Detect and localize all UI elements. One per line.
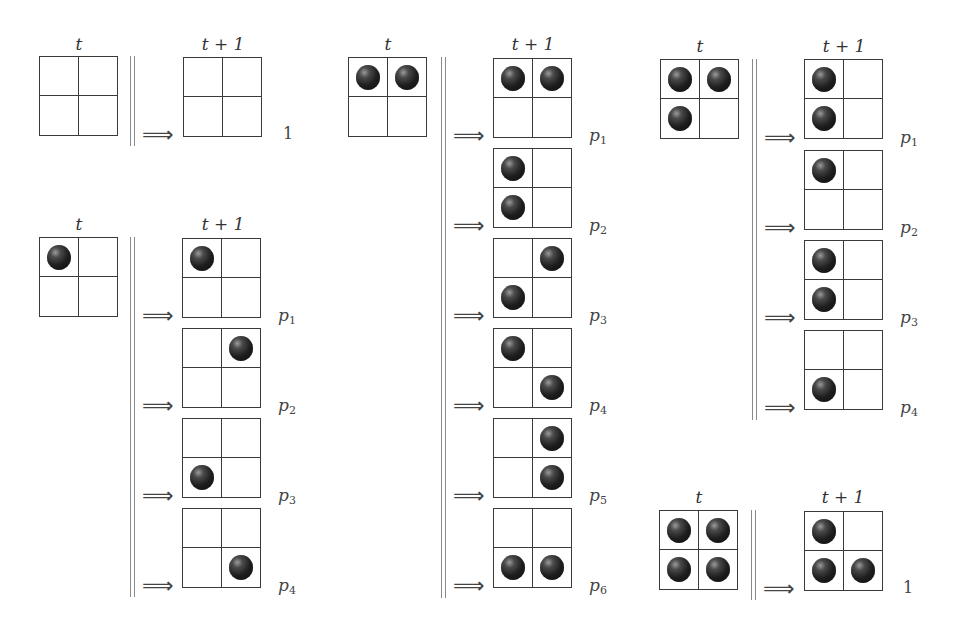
probability-label: 1: [903, 580, 913, 596]
grid-outcome-p2: [182, 328, 261, 408]
grid-outcome-p4: [493, 328, 572, 408]
ball-icon: [356, 65, 380, 90]
grid-state-t: [39, 237, 118, 317]
ball-icon: [540, 555, 564, 580]
time-label-t-plus-1: t + 1: [823, 38, 866, 55]
ball-icon: [668, 67, 692, 92]
transition-arrow-icon: ⟹: [453, 305, 485, 327]
transition-arrow-icon: ⟹: [764, 307, 796, 329]
transition-arrow-icon: ⟹: [142, 305, 174, 327]
probability-label-p1: p1: [278, 307, 296, 326]
probability-label-p4: p4: [900, 399, 918, 418]
probability-label-p1: p1: [589, 127, 607, 146]
ball-icon: [707, 67, 731, 92]
ball-icon: [812, 558, 836, 583]
separator-double-line: [752, 59, 757, 420]
ball-icon: [501, 336, 525, 361]
ball-icon: [501, 555, 525, 580]
separator-double-line: [751, 510, 756, 600]
time-label-t: t: [697, 38, 704, 55]
ball-icon: [395, 65, 419, 90]
transition-arrow-icon: ⟹: [142, 124, 174, 146]
ball-icon: [47, 245, 71, 270]
probability-label-p3: p3: [589, 307, 607, 326]
probability-label: 1: [283, 126, 293, 142]
probability-label-p5: p5: [589, 487, 607, 506]
grid-state-t-plus-1: [183, 57, 262, 137]
grid-state-t: [659, 510, 738, 590]
probability-label-p1: p1: [900, 129, 918, 148]
transition-arrow-icon: ⟹: [142, 485, 174, 507]
ball-icon: [812, 158, 836, 183]
ball-icon: [540, 465, 564, 490]
ball-icon: [851, 558, 875, 583]
ball-icon: [540, 246, 564, 271]
time-label-t-plus-1: t + 1: [512, 36, 555, 53]
ball-icon: [229, 555, 253, 580]
time-label-t: t: [696, 489, 703, 506]
grid-outcome-p4: [804, 330, 883, 410]
ball-icon: [812, 248, 836, 273]
probability-label-p2: p2: [278, 397, 296, 416]
separator-double-line: [130, 237, 135, 597]
time-label-t-plus-1: t + 1: [202, 36, 245, 53]
grid-outcome-p2: [804, 150, 883, 230]
transition-arrow-icon: ⟹: [453, 575, 485, 597]
ball-icon: [812, 287, 836, 312]
ball-icon: [667, 518, 691, 543]
grid-outcome-p1: [804, 59, 883, 139]
grid-state-t: [348, 57, 427, 137]
transition-arrow-icon: ⟹: [453, 125, 485, 147]
time-label-t: t: [76, 36, 83, 53]
time-label-t-plus-1: t + 1: [202, 216, 245, 233]
ball-icon: [540, 66, 564, 91]
ball-icon: [668, 106, 692, 131]
ball-icon: [812, 106, 836, 131]
separator-double-line: [441, 57, 446, 598]
grid-state-t: [660, 59, 739, 139]
ball-icon: [812, 67, 836, 92]
ball-icon: [501, 156, 525, 181]
probability-label-p3: p3: [278, 487, 296, 506]
probability-label-p6: p6: [589, 577, 607, 596]
ball-icon: [190, 465, 214, 490]
ball-icon: [540, 375, 564, 400]
ball-icon: [812, 377, 836, 402]
grid-outcome-p6: [493, 508, 572, 588]
ball-icon: [501, 285, 525, 310]
ball-icon: [501, 195, 525, 220]
transition-arrow-icon: ⟹: [453, 395, 485, 417]
time-label-t: t: [76, 216, 83, 233]
transition-arrow-icon: ⟹: [764, 217, 796, 239]
transition-arrow-icon: ⟹: [763, 578, 795, 600]
probability-label-p3: p3: [900, 309, 918, 328]
ball-icon: [229, 336, 253, 361]
transition-arrow-icon: ⟹: [453, 485, 485, 507]
probability-label-p2: p2: [589, 217, 607, 236]
grid-outcome-p2: [493, 148, 572, 228]
ball-icon: [812, 519, 836, 544]
ball-icon: [540, 426, 564, 451]
transition-arrow-icon: ⟹: [142, 575, 174, 597]
transition-arrow-icon: ⟹: [764, 127, 796, 149]
transition-arrow-icon: ⟹: [142, 395, 174, 417]
probability-label-p2: p2: [900, 219, 918, 238]
ball-icon: [667, 557, 691, 582]
ball-icon: [706, 557, 730, 582]
ball-icon: [190, 246, 214, 271]
grid-outcome-p3: [182, 418, 261, 498]
grid-state-t: [39, 56, 118, 136]
time-label-t-plus-1: t + 1: [822, 489, 865, 506]
ball-icon: [706, 518, 730, 543]
probability-label-p4: p4: [278, 577, 296, 596]
grid-outcome-p5: [493, 418, 572, 498]
grid-outcome-p1: [493, 58, 572, 138]
time-label-t: t: [385, 36, 392, 53]
transition-arrow-icon: ⟹: [764, 397, 796, 419]
ball-icon: [501, 66, 525, 91]
transition-arrow-icon: ⟹: [453, 215, 485, 237]
grid-outcome-p3: [804, 240, 883, 320]
probability-label-p4: p4: [589, 397, 607, 416]
grid-outcome-p4: [182, 508, 261, 588]
grid-state-t-plus-1: [804, 511, 883, 591]
